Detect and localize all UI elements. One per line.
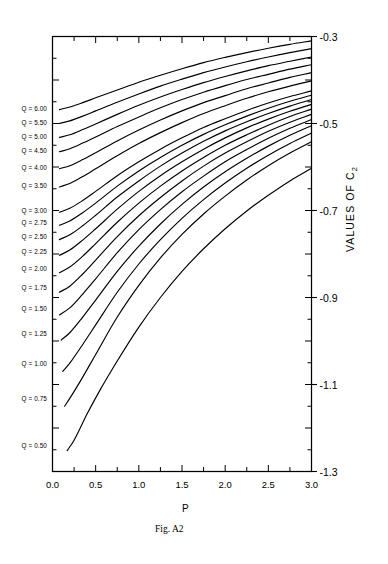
curve-q-1.25 xyxy=(61,126,311,340)
curve-label-q-4.50: Q = 4.50 xyxy=(14,147,47,154)
curve-label-q-2.25: Q = 2.25 xyxy=(14,248,47,255)
x-tick-label: 3.0 xyxy=(305,479,318,490)
curve-label-q-2.50: Q = 2.50 xyxy=(14,233,47,240)
curve-label-q-2.00: Q = 2.00 xyxy=(14,264,47,271)
y-axis-title: VALUES OF C2 xyxy=(344,122,359,252)
curve-label-q-0.50: Q = 0.50 xyxy=(14,442,47,449)
curve-label-q-3.50: Q = 3.50 xyxy=(14,181,47,188)
curve-q-5.50 xyxy=(59,49,311,124)
curve-label-q-1.25: Q = 1.25 xyxy=(14,329,47,336)
curve-q-1.50 xyxy=(59,120,311,315)
curve-q-1.75 xyxy=(59,114,311,292)
curve-q-6.00 xyxy=(59,41,311,110)
y-tick-label: -1.1 xyxy=(320,379,338,391)
y-tick-label: -0.9 xyxy=(320,292,338,304)
curve-label-q-1.00: Q = 1.00 xyxy=(14,360,47,367)
x-tick-label: 0.0 xyxy=(46,479,59,490)
curve-label-q-5.00: Q = 5.00 xyxy=(14,133,47,140)
curve-label-q-2.75: Q = 2.75 xyxy=(14,219,47,226)
x-tick-label: 2.5 xyxy=(262,479,275,490)
x-tick-label: 1.5 xyxy=(175,479,188,490)
y-axis-title-subscript: 2 xyxy=(350,167,359,171)
curve-label-q-0.75: Q = 0.75 xyxy=(14,395,47,402)
y-tick-label: -0.5 xyxy=(320,118,338,130)
curve-label-q-3.00: Q = 3.00 xyxy=(14,206,47,213)
curve-q-1.00 xyxy=(63,133,312,371)
axis-ticks xyxy=(53,37,318,472)
curve-label-q-1.50: Q = 1.50 xyxy=(14,305,47,312)
x-axis-title: P xyxy=(182,503,189,514)
curve-label-q-1.75: Q = 1.75 xyxy=(14,284,47,291)
curve-q-0.50 xyxy=(67,168,311,450)
figure-a2: Q = 6.00Q = 5.50Q = 5.00Q = 4.50Q = 4.00… xyxy=(0,0,388,564)
figure-caption: Fig. A2 xyxy=(155,524,184,534)
y-tick-label: -0.7 xyxy=(320,205,338,217)
x-tick-label: 2.0 xyxy=(219,479,232,490)
curve-q-0.75 xyxy=(65,142,312,406)
y-tick-label: -1.3 xyxy=(320,466,338,478)
y-tick-label: -0.3 xyxy=(320,31,338,43)
y-axis-title-main: VALUES OF C xyxy=(344,171,356,252)
curve-series-group xyxy=(59,41,311,451)
curve-label-q-6.00: Q = 6.00 xyxy=(14,105,47,112)
curve-q-2.25 xyxy=(59,104,311,255)
x-tick-label: 1.0 xyxy=(132,479,145,490)
curve-label-q-5.50: Q = 5.50 xyxy=(14,119,47,126)
curve-label-q-4.00: Q = 4.00 xyxy=(14,164,47,171)
x-tick-label: 0.5 xyxy=(89,479,102,490)
